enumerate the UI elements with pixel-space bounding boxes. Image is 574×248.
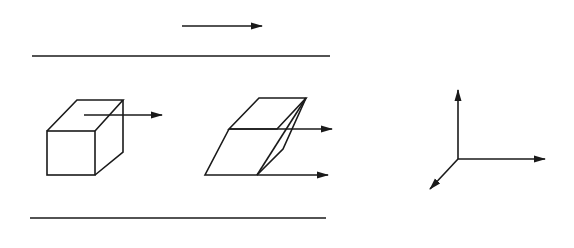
- cube-element: [47, 100, 162, 175]
- shear-flow-diagram: [0, 0, 574, 248]
- z-axis-arrow-icon: [430, 159, 458, 189]
- sheared-element: [205, 98, 332, 175]
- coordinate-axes: [430, 90, 545, 189]
